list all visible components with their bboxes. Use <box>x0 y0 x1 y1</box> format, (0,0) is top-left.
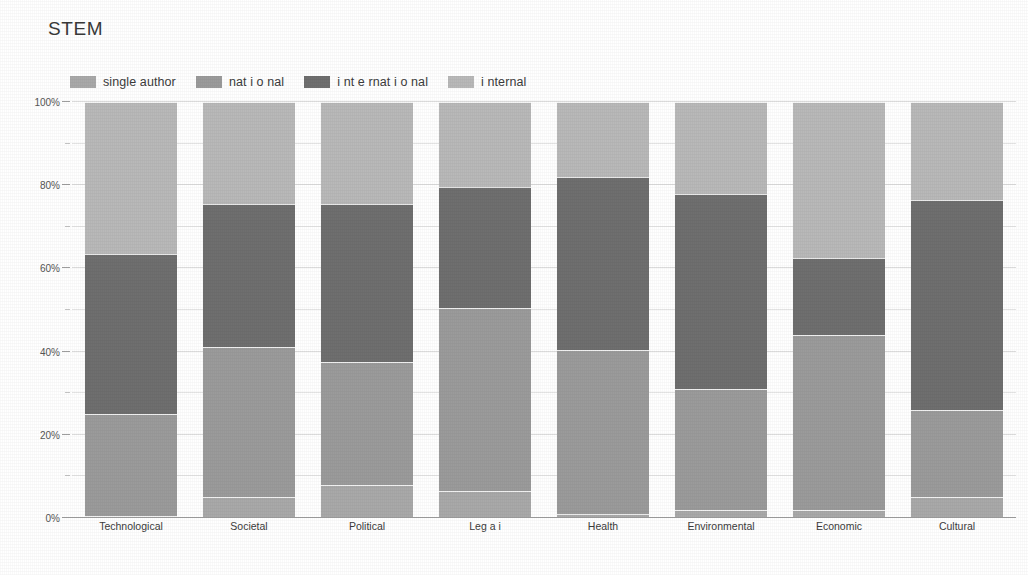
y-tick-mark-minor <box>65 226 70 227</box>
bar-segment[interactable] <box>793 258 885 335</box>
bar-segment[interactable] <box>321 362 413 485</box>
legend-swatch-national <box>196 76 222 88</box>
stacked-bar[interactable] <box>321 102 413 518</box>
x-tick-label: Technological <box>72 520 190 532</box>
stacked-bar[interactable] <box>85 102 177 518</box>
bar-segment[interactable] <box>793 335 885 510</box>
x-tick-label: Environmental <box>662 520 780 532</box>
legend-item-national[interactable]: nat i o nal <box>196 75 284 89</box>
y-tick-mark <box>62 267 70 268</box>
x-tick-label: Leg a i <box>426 520 544 532</box>
bar-segment[interactable] <box>675 102 767 194</box>
x-axis-labels: TechnologicalSocietalPoliticalLeg a iHea… <box>72 520 1016 532</box>
bar-segment[interactable] <box>557 177 649 350</box>
y-tick-mark-minor <box>65 309 70 310</box>
x-tick-label: Economic <box>780 520 898 532</box>
bar-segment[interactable] <box>85 414 177 516</box>
legend-label-single-author: single author <box>103 75 176 89</box>
bar-slot <box>426 102 544 518</box>
y-tick-label: 100% <box>34 97 60 108</box>
page-title: STEM <box>48 18 103 40</box>
bar-segment[interactable] <box>85 254 177 414</box>
bar-segment[interactable] <box>439 308 531 491</box>
bar-segment[interactable] <box>321 485 413 518</box>
bar-slot <box>662 102 780 518</box>
y-tick-label: 0% <box>46 513 60 524</box>
bar-segment[interactable] <box>793 102 885 258</box>
plot-area: 0%20%40%60%80%100% <box>72 102 1016 518</box>
stacked-bar[interactable] <box>203 102 295 518</box>
x-tick-label: Political <box>308 520 426 532</box>
stacked-bar[interactable] <box>793 102 885 518</box>
stacked-bar[interactable] <box>911 102 1003 518</box>
stacked-bar[interactable] <box>675 102 767 518</box>
x-tick-label: Cultural <box>898 520 1016 532</box>
x-axis-line <box>62 517 1016 518</box>
bar-segment[interactable] <box>557 102 649 177</box>
bar-segment[interactable] <box>675 194 767 390</box>
bar-segment[interactable] <box>911 102 1003 200</box>
y-tick-label: 20% <box>40 429 60 440</box>
bar-segment[interactable] <box>203 497 295 518</box>
bar-slot <box>308 102 426 518</box>
bar-segment[interactable] <box>439 187 531 308</box>
bar-slot <box>190 102 308 518</box>
bar-segment[interactable] <box>203 102 295 204</box>
bar-segment[interactable] <box>911 200 1003 410</box>
legend-label-internal: i nternal <box>481 75 526 89</box>
stacked-bar[interactable] <box>557 102 649 518</box>
legend-item-international[interactable]: i nt e rnat i o nal <box>304 75 428 89</box>
x-tick-label: Societal <box>190 520 308 532</box>
bar-segment[interactable] <box>203 347 295 497</box>
bar-slot <box>544 102 662 518</box>
bar-segment[interactable] <box>439 102 531 187</box>
bar-segment[interactable] <box>321 204 413 362</box>
bar-group <box>72 102 1016 518</box>
y-tick-label: 40% <box>40 346 60 357</box>
y-tick-mark <box>62 434 70 435</box>
bar-segment[interactable] <box>557 350 649 514</box>
y-tick-mark-minor <box>65 392 70 393</box>
y-tick-mark-minor <box>65 475 70 476</box>
y-tick-mark <box>62 351 70 352</box>
chart-legend: single author nat i o nal i nt e rnat i … <box>70 74 526 90</box>
bar-slot <box>898 102 1016 518</box>
x-tick-label: Health <box>544 520 662 532</box>
legend-swatch-single-author <box>70 76 96 88</box>
bar-segment[interactable] <box>203 204 295 348</box>
legend-item-internal[interactable]: i nternal <box>448 75 526 89</box>
stacked-bar[interactable] <box>439 102 531 518</box>
bar-segment[interactable] <box>85 102 177 254</box>
legend-item-single-author[interactable]: single author <box>70 75 176 89</box>
bar-segment[interactable] <box>675 389 767 510</box>
stacked-bar-chart: STEM single author nat i o nal i nt e rn… <box>0 0 1028 575</box>
legend-label-national: nat i o nal <box>229 75 284 89</box>
bar-segment[interactable] <box>911 497 1003 518</box>
legend-swatch-international <box>304 76 330 88</box>
bar-segment[interactable] <box>911 410 1003 497</box>
y-tick-mark <box>62 101 70 102</box>
y-tick-label: 60% <box>40 263 60 274</box>
legend-swatch-internal <box>448 76 474 88</box>
bar-slot <box>780 102 898 518</box>
bar-segment[interactable] <box>439 491 531 518</box>
y-tick-mark-minor <box>65 143 70 144</box>
y-tick-mark <box>62 184 70 185</box>
bar-slot <box>72 102 190 518</box>
bar-segment[interactable] <box>321 102 413 204</box>
legend-label-international: i nt e rnat i o nal <box>337 75 428 89</box>
y-tick-label: 80% <box>40 180 60 191</box>
